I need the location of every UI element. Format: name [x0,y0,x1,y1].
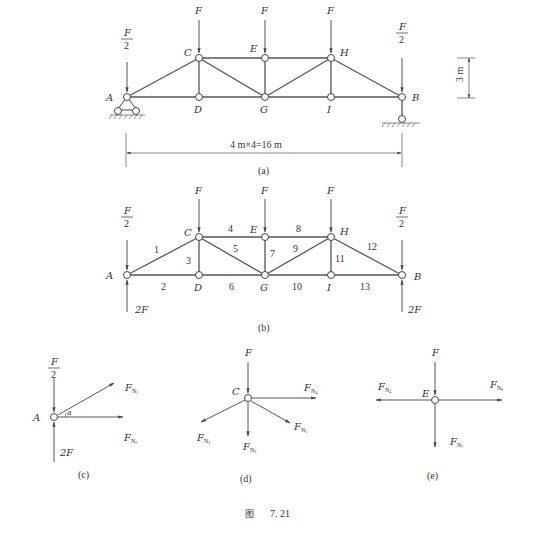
panel-label-b: (b) [258,322,270,334]
svg-text:13: 13 [360,281,370,292]
svg-text:C: C [232,386,240,397]
panel-label-c: (c) [78,469,89,481]
svg-text:6: 6 [229,281,234,292]
svg-text:1: 1 [154,244,159,255]
load-label-b-num: F [398,21,407,32]
panel-c: F 2 A α 2F FN1 FN2 (c) [32,356,138,481]
svg-text:3 m: 3 m [454,67,465,83]
svg-text:9: 9 [293,243,298,254]
svg-text:E: E [421,388,430,399]
panel-label-a: (a) [258,165,269,177]
load-label-h: F [326,5,335,16]
panel-d: F C FN4 FN5 FN3 FN1 (d) [196,347,317,485]
svg-text:2: 2 [51,369,56,380]
panel-label-e: (e) [427,470,438,482]
svg-text:F: F [123,205,132,216]
svg-text:4: 4 [228,223,233,234]
svg-text:2: 2 [399,218,404,229]
svg-text:12: 12 [367,241,377,252]
node-labels-a: A C E H D G I B [105,43,419,115]
svg-text:FN1: FN1 [124,382,138,395]
svg-text:E: E [249,43,258,54]
svg-text:D: D [193,104,202,115]
svg-text:FN4: FN4 [377,381,391,394]
svg-text:A: A [32,412,40,423]
svg-text:5: 5 [233,243,238,254]
svg-text:10: 10 [292,281,302,292]
svg-text:B: B [413,271,421,282]
svg-text:7: 7 [270,248,275,259]
load-label-e: F [260,5,269,16]
svg-text:FN3: FN3 [242,441,256,454]
svg-text:I: I [326,104,332,115]
svg-text:2: 2 [161,281,166,292]
reaction-label-b: 2F [407,304,422,315]
svg-text:F: F [431,347,440,358]
svg-text:FN4: FN4 [303,382,317,395]
svg-text:F: F [50,356,59,367]
figure-caption: 图 7. 21 [245,508,290,519]
svg-text:4 m×4=16 m: 4 m×4=16 m [230,139,282,150]
svg-text:FN5: FN5 [293,421,307,434]
svg-text:α: α [67,409,72,417]
load-label-a-num: F [123,27,132,38]
load-label-a-den: 2 [124,40,129,51]
svg-text:G: G [260,104,268,115]
truss-members-a [127,58,402,97]
reaction-label-a: 2F [134,304,149,315]
svg-text:G: G [260,282,268,293]
load-label-b-den: 2 [399,34,404,45]
svg-text:8: 8 [296,223,301,234]
svg-text:F: F [194,185,203,196]
svg-text:A: A [105,270,113,281]
span-dimension: 4 m×4=16 m [126,133,402,167]
svg-text:FN1: FN1 [196,432,210,445]
svg-text:FN7: FN7 [449,436,463,449]
svg-text:H: H [339,47,349,58]
svg-text:H: H [339,226,349,237]
svg-text:I: I [326,282,332,293]
svg-text:2F: 2F [59,447,74,458]
svg-text:D: D [193,282,202,293]
panel-e: F E FN4 FN8 FN7 (e) [376,347,503,482]
height-dimension: 3 m [454,58,475,98]
load-label-c: F [194,5,203,16]
svg-text:F: F [398,205,407,216]
svg-text:FN8: FN8 [489,379,503,392]
svg-text:7. 21: 7. 21 [270,508,290,519]
svg-text:F: F [260,185,269,196]
svg-text:F: F [326,185,335,196]
panel-a: F F F F 2 F 2 A C E H D G I B 3 m [105,5,475,177]
svg-text:B: B [411,92,419,103]
svg-text:A: A [105,92,113,103]
svg-text:FN2: FN2 [123,432,137,445]
truss-members-b [127,237,402,275]
svg-text:图: 图 [245,509,254,519]
svg-text:2: 2 [124,218,129,229]
svg-text:F: F [244,347,253,358]
panel-label-d: (d) [240,473,252,485]
panel-b: F F F F 2 F 2 2F 2F A C E H D G I B 1 2 … [105,185,422,334]
svg-text:C: C [184,47,192,58]
svg-text:C: C [184,227,192,238]
svg-text:3: 3 [186,255,191,266]
truss-figure: F F F F 2 F 2 A C E H D G I B 3 m [0,0,538,537]
svg-text:11: 11 [335,253,345,264]
svg-text:E: E [249,224,258,235]
